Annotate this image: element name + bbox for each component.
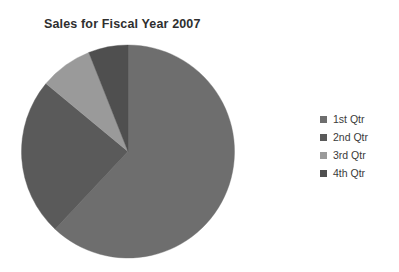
legend-item-label: 1st Qtr xyxy=(333,114,365,125)
legend-swatch-icon xyxy=(320,116,327,123)
legend-swatch-icon xyxy=(320,152,327,159)
legend-item-1st-qtr[interactable]: 1st Qtr xyxy=(320,110,392,128)
chart-title: Sales for Fiscal Year 2007 xyxy=(44,17,201,31)
legend-item-label: 3rd Qtr xyxy=(333,150,366,161)
legend-item-label: 4th Qtr xyxy=(333,168,365,179)
pie-chart-figure: Sales for Fiscal Year 2007 1st Qtr 2nd Q… xyxy=(0,0,399,272)
legend-item-label: 2nd Qtr xyxy=(333,132,368,143)
legend-item-3rd-qtr[interactable]: 3rd Qtr xyxy=(320,146,392,164)
legend-swatch-icon xyxy=(320,170,327,177)
legend-swatch-icon xyxy=(320,134,327,141)
chart-legend: 1st Qtr 2nd Qtr 3rd Qtr 4th Qtr xyxy=(320,110,392,182)
legend-item-2nd-qtr[interactable]: 2nd Qtr xyxy=(320,128,392,146)
pie-slice-group xyxy=(21,45,234,258)
pie-svg xyxy=(20,43,236,261)
pie-plot-area xyxy=(20,43,236,261)
legend-item-4th-qtr[interactable]: 4th Qtr xyxy=(320,164,392,182)
